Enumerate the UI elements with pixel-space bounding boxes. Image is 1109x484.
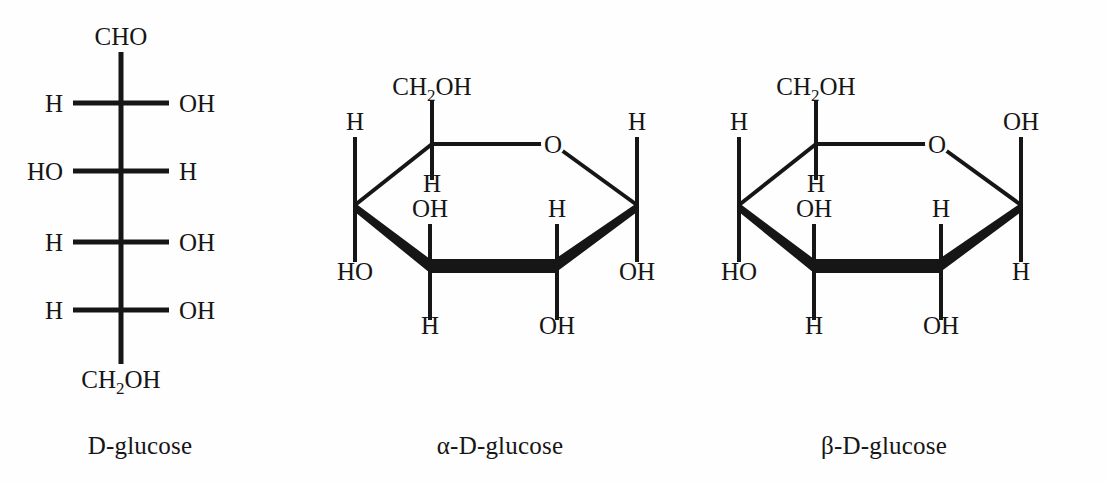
fischer-c3-right: H [179,158,197,185]
beta-c4-ho-label: HO [721,258,757,285]
beta-c1-anomeric-down-label: H [1012,258,1030,285]
alpha-c4-ho-label: HO [337,258,373,285]
structure-alpha-d-glucose: O CH2OH H H HO OH H H OH H OH [320,0,680,484]
alpha-ring-bond-c3-c2-wedge [430,259,555,273]
beta-ring-bond-c3-c2-wedge [814,259,939,273]
beta-c1-anomeric-up-label: OH [1003,108,1039,135]
fischer-c4-right: OH [179,229,215,256]
beta-c3-oh-label: OH [796,195,832,222]
beta-c2-oh-label: OH [923,312,959,339]
beta-c2-h-label: H [932,195,950,222]
alpha-c5-ch2oh-label: CH2OH [392,73,471,105]
structure-d-glucose: CHO H OH HO H H OH H OH CH2OH [0,0,280,484]
fischer-top-group: CHO [95,23,148,50]
beta-ring-front-bonds [739,203,1021,273]
alpha-c3-h-label: H [421,312,439,339]
beta-c5-h-label: H [807,170,825,197]
alpha-ring-front-bonds [355,203,637,273]
alpha-c2-h-label: H [548,195,566,222]
alpha-c2-oh-label: OH [539,312,575,339]
fischer-c2-right: OH [179,90,215,117]
fischer-bottom-group: CH2OH [81,366,160,398]
fischer-c5-right: OH [179,297,215,324]
caption-d-glucose: D-glucose [0,432,280,460]
fischer-c2-left: H [45,90,63,117]
beta-ring-oxygen-label: O [928,131,946,158]
alpha-c1-anomeric-down-label: OH [619,258,655,285]
beta-d-glucose-haworth-drawing: O CH2OH H H HO OH H H OH OH H [704,0,1064,484]
fischer-c4-left: H [45,229,63,256]
alpha-c3-oh-label: OH [412,195,448,222]
structure-beta-d-glucose: O CH2OH H H HO OH H H OH OH H [704,0,1064,484]
alpha-c5-h-label: H [423,170,441,197]
alpha-c1-anomeric-up-label: H [628,108,646,135]
beta-c4-h-label: H [730,108,748,135]
glucose-structures-figure: CHO H OH HO H H OH H OH CH2OH D-glucose [0,0,1109,484]
fischer-c5-left: H [45,297,63,324]
caption-alpha-d-glucose: α-D-glucose [320,432,680,460]
alpha-ring-oxygen-label: O [544,131,562,158]
beta-c3-h-label: H [805,312,823,339]
caption-beta-d-glucose: β-D-glucose [704,432,1064,460]
alpha-d-glucose-haworth-drawing: O CH2OH H H HO OH H H OH H OH [320,0,680,484]
beta-c5-ch2oh-label: CH2OH [776,73,855,105]
alpha-c4-h-label: H [346,108,364,135]
beta-ring-bond-c2-c1-wedge [939,203,1021,273]
fischer-c3-left: HO [27,158,63,185]
d-glucose-fischer-drawing: CHO H OH HO H H OH H OH CH2OH [0,0,280,484]
